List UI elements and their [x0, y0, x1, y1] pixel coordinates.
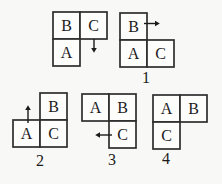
figure-option-3: ABC3 [82, 94, 136, 168]
arrow-left-head [95, 132, 100, 138]
arrow-right-head [155, 21, 160, 27]
cell-letter: C [161, 127, 172, 144]
arrow-up-head [25, 105, 31, 110]
cell-letter: A [161, 100, 173, 117]
cell-letter: C [88, 17, 99, 34]
figure-example: BCA [53, 12, 107, 66]
cell-letter: A [128, 45, 140, 62]
cell-letter: B [61, 17, 72, 34]
option-label-4: 4 [162, 150, 170, 167]
figure-option-4: ABC4 [153, 95, 207, 167]
cell-letter: A [61, 44, 73, 61]
cell-letter: A [21, 125, 33, 142]
option-label-1: 1 [142, 69, 150, 86]
figure-option-2: BAC2 [13, 93, 67, 169]
scanned-puzzle-figure: BCABAC1BAC2ABC3ABC4 [0, 0, 222, 184]
cell-letter: B [188, 100, 199, 117]
cell-letter: B [128, 18, 139, 35]
puzzle-canvas: BCABAC1BAC2ABC3ABC4 [0, 0, 222, 184]
figure-option-1: BAC1 [120, 13, 174, 86]
option-label-3: 3 [108, 151, 116, 168]
option-label-2: 2 [36, 152, 44, 169]
arrow-down-head [91, 48, 97, 53]
cell-letter: B [117, 99, 128, 116]
cell-letter: C [117, 126, 128, 143]
cell-letter: C [155, 45, 166, 62]
cell-letter: C [48, 125, 59, 142]
cell-letter: A [90, 99, 102, 116]
cell-letter: B [48, 98, 59, 115]
arrow-down-icon [91, 39, 97, 53]
